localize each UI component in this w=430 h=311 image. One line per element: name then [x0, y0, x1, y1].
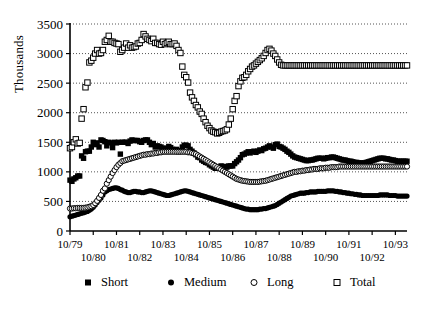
data-point [79, 116, 84, 121]
data-point [81, 156, 86, 161]
x-tick-label: 10/93 [383, 238, 409, 250]
y-tick-label: 2000 [37, 105, 63, 120]
x-tick-label: 10/79 [57, 238, 83, 250]
data-point [77, 173, 82, 178]
series-total [67, 31, 409, 151]
y-tick-label: 0 [57, 224, 64, 239]
chart-canvas: 050010001500200025003000350010/7910/8010… [0, 0, 430, 311]
data-point [185, 80, 190, 85]
y-tick-label: 1000 [37, 164, 63, 179]
data-point [106, 33, 111, 38]
data-point [85, 280, 91, 286]
x-tick-label: 10/92 [360, 251, 385, 263]
data-point [234, 93, 239, 98]
data-point [81, 106, 86, 111]
data-point [116, 41, 121, 46]
legend-label: Total [350, 275, 376, 289]
data-point [85, 80, 90, 85]
data-point [168, 280, 174, 286]
legend-label: Short [101, 275, 129, 289]
data-point [404, 164, 409, 169]
y-tick-label: 3500 [37, 17, 63, 32]
data-point [184, 75, 189, 80]
legend-label: Long [267, 275, 294, 289]
y-tick-label: 2500 [37, 76, 63, 91]
x-tick-label: 10/86 [220, 251, 246, 263]
x-tick-label: 10/85 [197, 238, 223, 250]
data-point [178, 50, 183, 55]
x-tick-label: 10/87 [243, 238, 269, 250]
data-point [100, 47, 105, 52]
data-point [251, 280, 257, 286]
y-tick-label: 3000 [37, 46, 63, 61]
data-point [228, 116, 233, 121]
data-point [110, 145, 115, 150]
data-point [96, 144, 101, 149]
data-point [230, 106, 235, 111]
data-point [404, 194, 409, 199]
x-tick-label: 10/91 [336, 238, 361, 250]
x-tick-label: 10/89 [290, 238, 316, 250]
data-point [180, 64, 185, 69]
data-point [404, 159, 409, 164]
chart-figure: Thousands 050010001500200025003000350010… [0, 0, 430, 311]
x-tick-label: 10/80 [81, 251, 107, 263]
x-tick-label: 10/83 [150, 238, 176, 250]
chart-legend: ShortMediumLongTotal [85, 275, 376, 289]
y-axis-title: Thousands [11, 9, 27, 119]
x-tick-label: 10/81 [104, 238, 129, 250]
data-point [226, 122, 231, 127]
series-medium [67, 185, 409, 219]
y-tick-label: 1500 [37, 135, 63, 150]
data-point [404, 63, 409, 68]
x-tick-label: 10/90 [313, 251, 339, 263]
data-point [334, 280, 340, 286]
x-tick-label: 10/82 [127, 251, 152, 263]
y-tick-label: 500 [44, 194, 64, 209]
legend-label: Medium [184, 275, 227, 289]
x-tick-label: 10/88 [267, 251, 293, 263]
data-point [77, 140, 82, 145]
data-point [118, 151, 123, 156]
x-tick-label: 10/84 [174, 251, 200, 263]
